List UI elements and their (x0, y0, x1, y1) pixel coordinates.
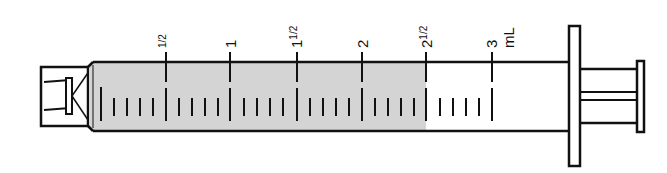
syringe-tip-hub (41, 67, 92, 126)
svg-text:11/2: 11/2 (288, 25, 305, 48)
syringe-diagram: 1/2 1 11/2 2 21/2 3 mL (0, 0, 667, 173)
scale-labels: 1/2 1 11/2 2 21/2 3 mL (157, 25, 517, 48)
svg-text:21/2: 21/2 (418, 25, 435, 48)
finger-flange (569, 26, 580, 166)
liquid-fill (89, 62, 426, 131)
thumb-press[interactable] (637, 61, 644, 132)
plunger-rod[interactable] (580, 61, 644, 132)
svg-text:mL: mL (500, 27, 517, 48)
label-one: 1 (222, 40, 239, 48)
svg-text:1/2: 1/2 (157, 34, 168, 48)
label-two-and-half: 21/2 (418, 25, 435, 48)
label-unit: mL (500, 27, 517, 48)
label-three: 3 (483, 40, 500, 48)
svg-text:1: 1 (222, 40, 239, 48)
svg-text:3: 3 (483, 40, 500, 48)
svg-text:2: 2 (354, 40, 371, 48)
label-two: 2 (354, 40, 371, 48)
label-one-and-half: 11/2 (288, 25, 305, 48)
label-half: 1/2 (157, 34, 168, 48)
